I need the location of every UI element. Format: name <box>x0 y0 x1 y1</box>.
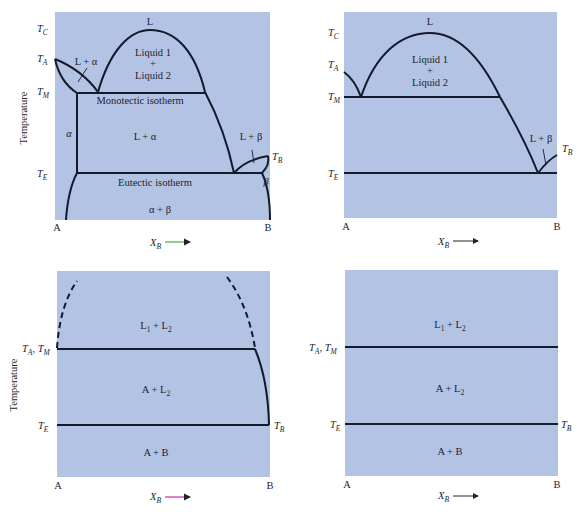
region-liquid2: Liquid 2 <box>412 77 448 88</box>
region-l: L <box>427 16 433 27</box>
axis-a-label: A <box>54 480 62 491</box>
region-eutectic-isotherm: Eutectic isotherm <box>118 177 192 188</box>
region-a-b: A + B <box>437 446 462 457</box>
axis-a-label: A <box>343 479 351 490</box>
xb-label: XB <box>437 490 449 504</box>
region-l-beta: L + β <box>530 133 553 144</box>
region-l: L <box>147 16 153 27</box>
label-tc: TC <box>328 27 340 41</box>
panel-2: TC TA TM TE TB L Liquid 1 + Liquid 2 L +… <box>328 12 573 250</box>
region-alpha-beta: α + β <box>149 204 171 215</box>
label-te: TE <box>328 168 339 182</box>
label-tb: TB <box>274 420 285 434</box>
label-ta-tm: TA, TM <box>309 342 338 356</box>
label-ta: TA <box>37 53 48 67</box>
label-tb: TB <box>561 419 572 433</box>
label-ta: TA <box>328 59 339 73</box>
region-liquid1: Liquid 1 <box>412 54 448 65</box>
panel-1: TC TA TM TE TB L L + α Liquid 1 + Liquid… <box>18 12 283 251</box>
y-axis-label: Temperature <box>8 358 19 411</box>
label-tb: TB <box>272 151 283 165</box>
panel-1-background <box>55 12 270 220</box>
region-alpha: α <box>66 128 72 139</box>
region-beta: β <box>262 176 269 187</box>
panel-2-background <box>344 12 557 218</box>
label-te: TE <box>38 420 49 434</box>
label-tm: TM <box>37 86 50 100</box>
panel-4: TA, TM TE TB L1 + L2 A + L2 A + B A B XB <box>309 270 572 504</box>
region-l-alpha-top: L + α <box>75 56 98 67</box>
label-te: TE <box>330 419 341 433</box>
region-plus: + <box>150 58 156 69</box>
region-liquid2: Liquid 2 <box>135 70 171 81</box>
axis-a-label: A <box>342 221 350 232</box>
label-tb: TB <box>562 143 573 157</box>
region-l-alpha: L + α <box>134 131 157 142</box>
region-l-beta: L + β <box>240 131 263 142</box>
label-tm: TM <box>328 91 341 105</box>
region-plus: + <box>427 65 433 76</box>
axis-b-label: B <box>553 479 560 490</box>
xb-label: XB <box>149 237 161 251</box>
axis-b-label: B <box>553 221 560 232</box>
axis-b-label: B <box>266 480 273 491</box>
region-liquid1: Liquid 1 <box>135 47 171 58</box>
y-axis-label: Temperature <box>18 91 29 144</box>
region-monotectic-isotherm: Monotectic isotherm <box>96 95 183 106</box>
label-tc: TC <box>37 23 49 37</box>
axis-a-label: A <box>53 222 61 233</box>
label-ta-tm: TA, TM <box>22 343 51 357</box>
axis-b-label: B <box>264 222 271 233</box>
label-te: TE <box>37 168 48 182</box>
phase-diagram-figure: TC TA TM TE TB L L + α Liquid 1 + Liquid… <box>0 0 585 515</box>
xb-label: XB <box>149 491 161 505</box>
panel-3: TA, TM TE TB L1 + L2 A + L2 A + B A B XB… <box>8 271 285 505</box>
region-a-b: A + B <box>143 447 168 458</box>
xb-label: XB <box>437 236 449 250</box>
